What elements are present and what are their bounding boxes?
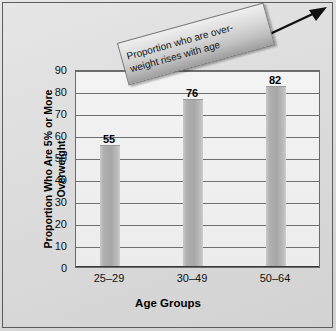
y-axis-tick-labels: 90 80 70 60 50 40 30 20 10 0	[0, 0, 71, 331]
y-tick-label: 60	[7, 130, 67, 142]
bar-value-label-1: 76	[186, 87, 198, 99]
x-tick-label-2: 50–64	[260, 272, 291, 284]
bar-value-label-2: 82	[269, 74, 281, 86]
y-tick-label: 10	[7, 240, 67, 252]
y-tick-label: 80	[7, 86, 67, 98]
bar-30-49	[183, 99, 203, 266]
x-tick-label-0: 25–29	[94, 272, 125, 284]
y-tick-label: 20	[7, 218, 67, 230]
x-tick-label-1: 30–49	[177, 272, 208, 284]
y-tick-label: 30	[7, 196, 67, 208]
gridline-90	[76, 71, 319, 72]
bar-value-label-0: 55	[103, 133, 115, 145]
y-tick-label: 40	[7, 174, 67, 186]
plot-area	[75, 70, 320, 268]
bar-25-29	[100, 145, 120, 266]
y-tick-label: 50	[7, 152, 67, 164]
x-axis-baseline	[76, 266, 319, 267]
x-axis-title: Age Groups	[0, 297, 336, 309]
y-tick-label: 90	[7, 64, 67, 76]
chart-figure: Proportion Who Are 5% or More Overweight…	[0, 0, 336, 331]
y-tick-label: 0	[7, 262, 67, 274]
y-tick-label: 70	[7, 108, 67, 120]
bar-50-64	[266, 86, 286, 266]
